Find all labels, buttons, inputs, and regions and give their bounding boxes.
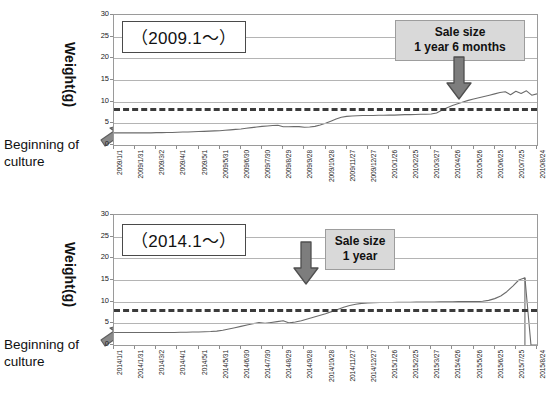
x-tick-label: 2014/4/1 bbox=[179, 350, 186, 375]
x-tick-mark bbox=[451, 346, 452, 349]
x-tick-mark bbox=[430, 346, 431, 349]
x-tick-label: 2015/6/25 bbox=[497, 350, 504, 378]
x-tick-label: 2009/1/1 bbox=[116, 150, 123, 175]
x-tick-label: 2009/4/1 bbox=[179, 150, 186, 175]
x-tick-mark bbox=[325, 346, 326, 349]
x-tick-mark bbox=[515, 346, 516, 349]
y-tick-mark bbox=[110, 122, 113, 123]
x-tick-mark bbox=[388, 346, 389, 349]
data-line bbox=[114, 91, 537, 133]
x-tick-mark bbox=[388, 146, 389, 149]
x-tick-mark bbox=[176, 346, 177, 349]
x-tick-label: 2014/1/1 bbox=[116, 350, 123, 375]
x-tick-mark bbox=[198, 146, 199, 149]
x-tick-mark bbox=[219, 146, 220, 149]
callout-sale-size-top: Sale size 1 year 6 months bbox=[395, 20, 525, 61]
y-tick-mark bbox=[110, 79, 113, 80]
x-tick-mark bbox=[261, 346, 262, 349]
y-tick-mark bbox=[110, 236, 113, 237]
x-tick-mark bbox=[536, 146, 537, 149]
gridline bbox=[114, 302, 537, 303]
x-tick-label: 2009/8/29 bbox=[285, 150, 292, 178]
x-tick-mark bbox=[325, 146, 326, 149]
x-tick-mark bbox=[155, 146, 156, 149]
x-tick-label: 2014/10/28 bbox=[328, 350, 335, 382]
x-tick-label: 2010/4/26 bbox=[454, 150, 461, 178]
gridline bbox=[114, 323, 537, 324]
x-tick-label: 2015/3/27 bbox=[433, 350, 440, 378]
x-tick-label: 2009/11/27 bbox=[349, 150, 356, 182]
callout-line2-top: 1 year 6 months bbox=[403, 40, 517, 55]
y-tick-mark bbox=[110, 344, 113, 345]
x-tick-label: 2014/9/28 bbox=[306, 350, 313, 378]
x-tick-mark bbox=[451, 146, 452, 149]
y-tick-label: 30 bbox=[93, 10, 109, 18]
x-tick-label: 2009/5/31 bbox=[222, 150, 229, 178]
callout-line1-top: Sale size bbox=[435, 25, 486, 39]
chart-2009: Weight(g) Beginning of culture （2009.1〜）… bbox=[0, 0, 541, 200]
y-axis-label-bottom: Weight(g) bbox=[62, 242, 78, 307]
x-tick-mark bbox=[473, 346, 474, 349]
y-tick-mark bbox=[110, 36, 113, 37]
x-tick-mark bbox=[219, 346, 220, 349]
x-tick-mark bbox=[346, 146, 347, 149]
x-tick-label: 2009/6/30 bbox=[243, 150, 250, 178]
y-tick-mark bbox=[110, 14, 113, 15]
x-tick-label: 2015/4/26 bbox=[454, 350, 461, 378]
x-tick-label: 2009/10/28 bbox=[328, 150, 335, 182]
y-tick-label: 15 bbox=[93, 75, 109, 83]
x-tick-label: 2010/7/25 bbox=[518, 150, 525, 178]
y-tick-label: 20 bbox=[93, 253, 109, 261]
y-tick-mark bbox=[110, 214, 113, 215]
gridline bbox=[114, 80, 537, 81]
x-tick-mark bbox=[367, 346, 368, 349]
x-tick-mark bbox=[494, 346, 495, 349]
gridline bbox=[114, 102, 537, 103]
series-title-bottom: （2014.1〜） bbox=[122, 224, 246, 256]
x-tick-label: 2014/3/2 bbox=[158, 350, 165, 375]
x-tick-mark bbox=[282, 146, 283, 149]
x-tick-mark bbox=[430, 146, 431, 149]
x-tick-mark bbox=[282, 346, 283, 349]
x-tick-mark bbox=[155, 346, 156, 349]
x-tick-label: 2014/7/30 bbox=[264, 350, 271, 378]
y-tick-label: 5 bbox=[93, 118, 109, 126]
x-tick-label: 2014/6/30 bbox=[243, 350, 250, 378]
x-tick-label: 2009/5/1 bbox=[201, 150, 208, 175]
down-arrow-icon-top bbox=[445, 57, 473, 101]
x-tick-label: 2015/8/24 bbox=[539, 350, 546, 378]
x-tick-mark bbox=[134, 146, 135, 149]
x-tick-label: 2009/3/2 bbox=[158, 150, 165, 175]
y-tick-label: 10 bbox=[93, 297, 109, 305]
threshold-line bbox=[114, 108, 537, 111]
x-tick-label: 2010/5/26 bbox=[476, 150, 483, 178]
x-tick-mark bbox=[113, 346, 114, 349]
x-tick-mark bbox=[494, 146, 495, 149]
y-tick-label: 30 bbox=[93, 210, 109, 218]
x-tick-label: 2015/5/26 bbox=[476, 350, 483, 378]
x-tick-label: 2014/1/31 bbox=[137, 350, 144, 378]
y-tick-label: 25 bbox=[93, 232, 109, 240]
x-tick-mark bbox=[113, 146, 114, 149]
y-tick-label: 20 bbox=[93, 53, 109, 61]
y-tick-mark bbox=[110, 322, 113, 323]
y-tick-mark bbox=[110, 279, 113, 280]
x-tick-label: 2015/1/26 bbox=[391, 350, 398, 378]
y-tick-label: 10 bbox=[93, 97, 109, 105]
x-tick-label: 2015/2/25 bbox=[412, 350, 419, 378]
x-tick-mark bbox=[198, 346, 199, 349]
gridline bbox=[114, 123, 537, 124]
x-tick-mark bbox=[515, 146, 516, 149]
chart-2014: Weight(g) Beginning of culture （2014.1〜）… bbox=[0, 200, 541, 400]
x-tick-mark bbox=[303, 146, 304, 149]
x-tick-mark bbox=[176, 146, 177, 149]
x-tick-mark bbox=[409, 146, 410, 149]
y-tick-label: 25 bbox=[93, 32, 109, 40]
x-tick-mark bbox=[367, 146, 368, 149]
y-tick-mark bbox=[110, 144, 113, 145]
series-title-top: （2009.1〜） bbox=[122, 21, 246, 53]
x-tick-label: 2010/6/25 bbox=[497, 150, 504, 178]
x-tick-mark bbox=[303, 346, 304, 349]
y-tick-label: 0 bbox=[93, 140, 109, 148]
x-tick-label: 2010/1/26 bbox=[391, 150, 398, 178]
